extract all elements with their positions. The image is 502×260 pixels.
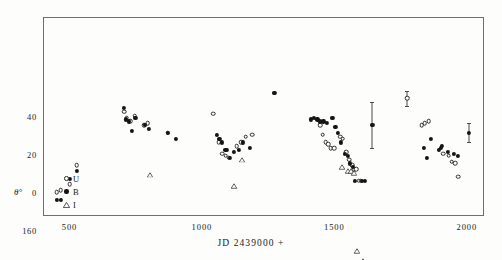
data-point-b [237, 148, 241, 152]
data-point-b [429, 136, 433, 140]
data-point-b [363, 179, 367, 183]
x-tick-label: 2000 [456, 222, 477, 232]
data-point-b [174, 136, 178, 140]
error-bar-cap [467, 123, 471, 124]
data-point-i [239, 157, 245, 163]
plot-area [44, 18, 483, 215]
y-tick-label: 160 [11, 226, 37, 236]
data-point-u [405, 96, 410, 101]
data-point-u [453, 161, 458, 166]
data-point-b [466, 131, 470, 135]
legend-item-b: B [60, 185, 80, 198]
data-point-b [425, 156, 429, 160]
data-point-b [130, 129, 134, 133]
open-circle-icon [60, 176, 73, 181]
data-point-b [440, 144, 444, 148]
error-bar-cap [370, 148, 374, 149]
figure-polarization-position-angle: θ° 40200160140120100 500100015002000 JD … [0, 0, 502, 260]
data-point-i [351, 170, 357, 176]
y-tick-label: 40 [11, 112, 37, 122]
data-point-i [354, 249, 360, 255]
data-point-b [147, 127, 151, 131]
x-tick-label: 500 [62, 222, 77, 232]
error-bar-cap [405, 106, 409, 107]
data-point-u [250, 132, 255, 137]
data-point-i [147, 172, 153, 178]
data-point-u [332, 146, 337, 151]
y-tick-label: 20 [11, 150, 37, 160]
data-point-b [421, 146, 425, 150]
data-point-b [325, 121, 329, 125]
filled-circle-icon [60, 189, 73, 193]
data-point-b [228, 156, 232, 160]
error-bar-cap [405, 91, 409, 92]
data-point-u [446, 153, 451, 158]
data-point-b [339, 140, 343, 144]
x-tick-label: 1500 [324, 222, 345, 232]
data-point-u [211, 111, 216, 116]
data-point-b [333, 125, 337, 129]
data-point-b [330, 115, 334, 119]
data-point-b [225, 148, 229, 152]
data-point-u [320, 132, 325, 137]
data-point-b [272, 91, 276, 95]
x-tick-label: 1000 [192, 222, 213, 232]
data-point-b [370, 123, 374, 127]
data-point-u [426, 119, 431, 124]
plot-frame [43, 17, 484, 216]
data-point-b [247, 146, 251, 150]
data-point-u [318, 123, 323, 128]
y-tick-label: 0 [11, 188, 37, 198]
data-point-b [232, 150, 236, 154]
data-point-u [243, 134, 248, 139]
legend-item-i: I [60, 198, 80, 211]
data-point-u [456, 175, 461, 180]
error-bar-cap [370, 102, 374, 103]
legend-label-u: U [73, 174, 80, 184]
data-point-b [220, 140, 224, 144]
data-point-u [74, 163, 79, 168]
legend-item-u: U [60, 172, 80, 185]
data-point-b [133, 115, 137, 119]
legend: U B I [60, 172, 80, 211]
legend-label-i: I [73, 200, 76, 210]
open-triangle-icon [60, 202, 73, 208]
data-point-u [122, 109, 127, 114]
data-point-i [231, 184, 237, 190]
error-bar-cap [467, 142, 471, 143]
data-point-b [241, 140, 245, 144]
legend-label-b: B [73, 187, 79, 197]
x-tick-top-minor [44, 108, 45, 112]
data-point-b [456, 154, 460, 158]
x-axis-title: JD 2439000 + [0, 238, 502, 248]
